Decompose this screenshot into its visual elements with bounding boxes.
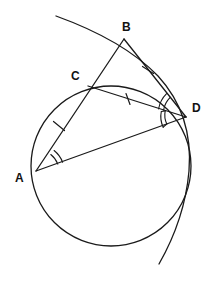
vertex-label-A: A — [15, 172, 24, 184]
geometry-figure: A B C D — [0, 0, 214, 291]
vertex-label-C: C — [71, 70, 80, 82]
vertex-label-D: D — [192, 102, 201, 114]
vertex-label-B: B — [122, 21, 131, 33]
main-circle — [31, 86, 191, 246]
segment-AB — [36, 39, 124, 171]
angle-mark-at-D-upper — [159, 94, 171, 111]
geometry-canvas — [0, 0, 214, 291]
tick-on-AC — [54, 122, 65, 131]
segment-BD — [124, 39, 186, 117]
